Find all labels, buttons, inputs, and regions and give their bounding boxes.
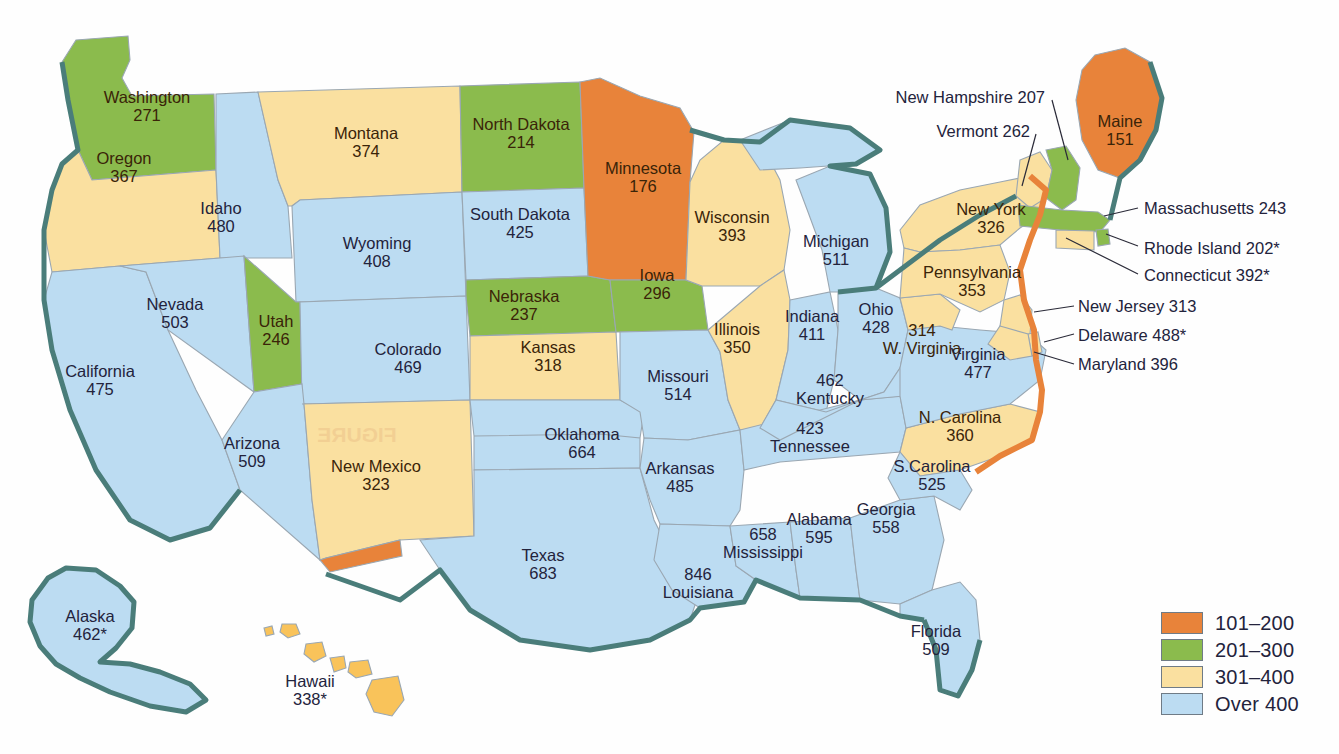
state-shape-southdakota: [462, 188, 588, 280]
state-shape-kansas: [470, 332, 620, 400]
map-legend: 101–200201–300301–400Over 400: [1161, 610, 1299, 718]
legend-label: Over 400: [1215, 693, 1299, 716]
legend-label: 101–200: [1215, 612, 1294, 635]
state-shape-arkansas: [640, 430, 744, 526]
state-shape-nebraska: [466, 276, 616, 336]
callout-vermont: Vermont 262: [936, 122, 1030, 141]
state-shape-colorado: [300, 296, 470, 404]
state-shape-alabama: [790, 518, 860, 600]
legend-swatch: [1161, 693, 1203, 715]
legend-label: 301–400: [1215, 666, 1294, 689]
legend-label: 201–300: [1215, 639, 1294, 662]
state-shape-montana: [258, 86, 462, 206]
legend-swatch: [1161, 612, 1203, 634]
legend-swatch: [1161, 639, 1203, 661]
state-shape-oklahoma: [470, 400, 644, 470]
callout-maryland: Maryland 396: [1078, 355, 1178, 374]
state-shape-iowa: [610, 280, 708, 332]
state-shape-northdakota: [460, 82, 584, 192]
state-shape-newmexico: [302, 400, 474, 560]
legend-swatch: [1161, 666, 1203, 688]
callout-rhode-island: Rhode Island 202*: [1144, 239, 1280, 258]
callout-new-jersey: New Jersey 313: [1078, 297, 1196, 316]
legend-row: Over 400: [1161, 691, 1299, 717]
legend-row: 301–400: [1161, 664, 1299, 690]
state-shape-rhodeisland: [1096, 229, 1110, 246]
callout-new-hampshire: New Hampshire 207: [896, 88, 1045, 107]
callout-connecticut: Connecticut 392*: [1144, 266, 1270, 285]
legend-row: 101–200: [1161, 610, 1299, 636]
map-svg: .s{stroke:#9aa7b2;stroke-width:1.1;} .c1…: [0, 0, 1339, 754]
callout-delaware: Delaware 488*: [1078, 326, 1186, 345]
state-shape-connecticut: [1056, 230, 1094, 250]
callout-massachusetts: Massachusetts 243: [1144, 199, 1286, 218]
state-shape-alaska: [30, 568, 206, 712]
legend-row: 201–300: [1161, 637, 1299, 663]
state-shape-minnesota: [580, 78, 694, 280]
state-shape-wyoming: [292, 192, 466, 302]
us-choropleth-map: .s{stroke:#9aa7b2;stroke-width:1.1;} .c1…: [0, 0, 1339, 754]
